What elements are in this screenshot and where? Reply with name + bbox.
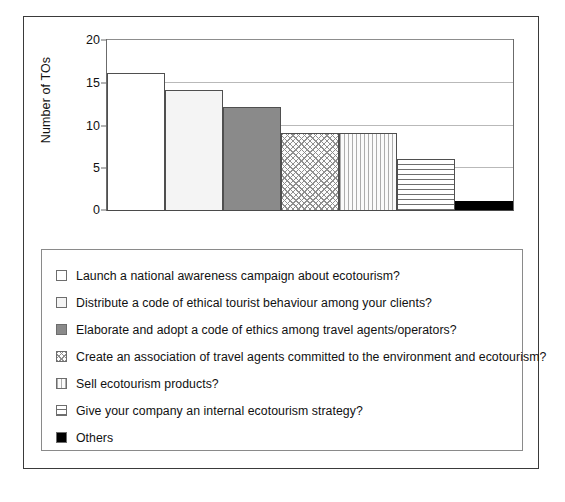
y-tick-label-10: 10 [86,119,100,133]
legend-item-6: Give your company an internal ecotourism… [56,397,522,424]
legend-swatch-icon-3 [56,324,67,335]
legend-item-5: Sell ecotourism products? [56,370,522,397]
legend-item-2: Distribute a code of ethical tourist beh… [56,289,522,316]
y-tick-label-0: 0 [93,203,100,217]
legend-label-7: Others [76,431,113,445]
legend-label-5: Sell ecotourism products? [76,377,219,391]
legend-label-1: Launch a national awareness campaign abo… [76,269,400,283]
legend-item-1: Launch a national awareness campaign abo… [56,262,522,289]
legend-swatch-icon-6 [56,405,67,416]
legend-swatch-icon-1 [56,270,67,281]
bar-7 [455,201,513,210]
legend-box: Launch a national awareness campaign abo… [41,249,523,451]
bar-1 [107,73,165,210]
y-tick-label-15: 15 [86,76,100,90]
bar-6 [397,159,455,210]
legend-item-4: Create an association of travel agents c… [56,343,522,370]
bar-chart: Number of TOs 20 15 10 5 0 [24,17,540,232]
legend-label-4: Create an association of travel agents c… [76,350,546,364]
bar-2 [165,90,223,210]
legend-swatch-icon-2 [56,297,67,308]
y-tick-label-5: 5 [93,161,100,175]
bar-3 [223,107,281,210]
legend-item-3: Elaborate and adopt a code of ethics amo… [56,316,522,343]
legend-swatch-icon-4 [56,351,67,362]
legend-item-7: Others [56,424,522,451]
legend-swatch-icon-7 [56,432,67,443]
y-axis-label: Number of TOs [39,40,53,160]
legend-label-2: Distribute a code of ethical tourist beh… [76,296,432,310]
legend-label-3: Elaborate and adopt a code of ethics amo… [76,323,457,337]
legend-label-6: Give your company an internal ecotourism… [76,404,363,418]
bar-4 [281,133,339,210]
plot-area: 20 15 10 5 0 [106,39,514,211]
figure-frame: Number of TOs 20 15 10 5 0 [23,16,539,469]
y-tick-label-20: 20 [86,33,100,47]
legend-swatch-icon-5 [56,378,67,389]
bar-5 [339,133,397,210]
bar-series [107,39,513,210]
